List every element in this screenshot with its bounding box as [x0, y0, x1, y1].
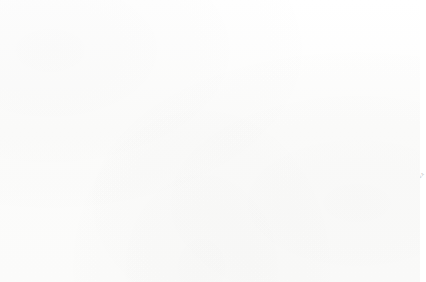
y-tick-mark [30, 110, 34, 111]
y-tick-mark [30, 37, 34, 38]
bar [116, 127, 138, 202]
y-tick-mark [30, 128, 34, 129]
bar [41, 36, 63, 202]
x-axis-title: Items [0, 261, 420, 270]
gridline [34, 19, 406, 20]
y-tick-mark [30, 165, 34, 166]
y-axis-line [34, 20, 35, 202]
gridline [34, 37, 406, 38]
gridline [34, 74, 406, 75]
gridline [34, 55, 406, 56]
y-tick-mark [30, 92, 34, 93]
y-tick-mark [30, 183, 34, 184]
y-tick-mark [30, 74, 34, 75]
bar [79, 89, 101, 202]
y-tick-mark [30, 19, 34, 20]
y-tick-mark [30, 146, 34, 147]
y-tick-mark [30, 201, 34, 202]
y-tick-mark [30, 55, 34, 56]
